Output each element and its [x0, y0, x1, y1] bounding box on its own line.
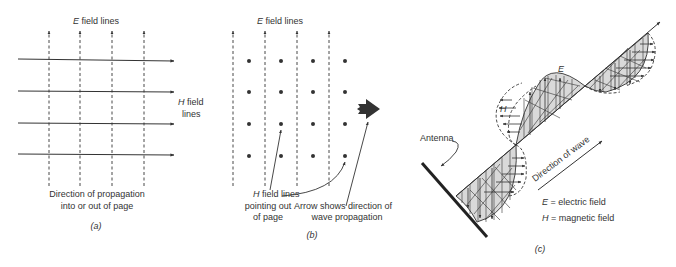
- e-wave-label: E: [558, 64, 565, 74]
- panel-a: E field lines H field lines Direction of…: [18, 16, 204, 231]
- h-caption-b-line2: pointing out: [245, 201, 292, 211]
- panel-b: E field lines H field lines pointing out…: [233, 16, 393, 240]
- panel-c: Antenna: [420, 22, 660, 254]
- h-caption-b-line1: H field lines: [253, 189, 300, 199]
- caption-a-line1: Direction of propagation: [49, 189, 145, 199]
- antenna-pointer: [441, 141, 458, 166]
- h-wave-label: H: [500, 104, 507, 114]
- e-field-label-b: E field lines: [257, 16, 304, 26]
- h-caption-b-line3: of page: [253, 212, 283, 222]
- e-field-wave: [456, 33, 648, 222]
- arrow-caption-b-line1: Arrow shows direction of: [294, 201, 393, 211]
- caption-a-line2: into or out of page: [61, 201, 134, 211]
- legend-h: H = magnetic field: [542, 213, 614, 223]
- e-field-lines-a: [49, 31, 144, 186]
- legend-e: E = electric field: [542, 197, 606, 207]
- h-field-label-a: H field: [178, 97, 204, 107]
- panel-label-c: (c): [535, 244, 546, 254]
- em-wave-diagram: E field lines H field lines Direction of…: [0, 0, 676, 267]
- h-field-lines-a: [18, 59, 174, 155]
- e-field-label-a: E field lines: [73, 16, 120, 26]
- arrow-caption-b-line2: wave propagation: [310, 212, 382, 222]
- antenna-label: Antenna: [420, 133, 454, 143]
- panel-label-a: (a): [91, 221, 102, 231]
- e-field-lines-b: [233, 31, 329, 186]
- direction-label: Direction of wave: [530, 134, 591, 184]
- propagation-arrow-icon: [357, 99, 380, 119]
- h-field-label-a-line2: lines: [182, 109, 201, 119]
- propagation-axis: [456, 22, 660, 196]
- panel-label-b: (b): [307, 230, 318, 240]
